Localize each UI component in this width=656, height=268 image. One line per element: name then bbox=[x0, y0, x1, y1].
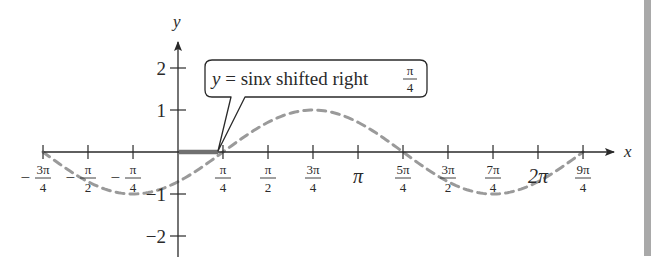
y-tick-label: −2 bbox=[146, 226, 166, 247]
x-tick-label-denominator: 2 bbox=[85, 180, 92, 195]
x-tick-label-numerator: 3π bbox=[306, 162, 320, 177]
callout-frac-num: π bbox=[407, 63, 414, 78]
x-tick-label-minus: − bbox=[110, 168, 120, 187]
x-tick-label-numerator: π bbox=[265, 162, 272, 177]
callout-text: y = sinx shifted right bbox=[210, 68, 369, 89]
x-tick-label-denominator: 4 bbox=[400, 180, 407, 195]
y-tick-label: 2 bbox=[157, 58, 167, 79]
x-tick-label-denominator: 4 bbox=[310, 180, 317, 195]
x-tick-label-numerator: 5π bbox=[396, 162, 410, 177]
callout-annotation: y = sinx shifted right π 4 bbox=[205, 60, 427, 151]
y-tick-label: −1 bbox=[146, 184, 166, 205]
x-tick-label-denominator: 2 bbox=[445, 180, 452, 195]
callout-frac-den: 4 bbox=[407, 80, 414, 95]
x-tick-label-denominator: 4 bbox=[490, 180, 497, 195]
x-tick-label-numerator: π bbox=[220, 162, 227, 177]
x-tick-label-numerator: π bbox=[85, 162, 92, 177]
x-tick-label: 2π bbox=[528, 165, 549, 187]
page-edge-bar bbox=[644, 0, 651, 256]
x-tick-label-minus: − bbox=[20, 168, 30, 187]
x-tick-label-minus: − bbox=[65, 168, 75, 187]
x-tick-label-denominator: 4 bbox=[580, 180, 587, 195]
x-tick-label: π bbox=[353, 165, 364, 187]
x-tick-label-numerator: 3π bbox=[36, 162, 50, 177]
x-tick-label-denominator: 4 bbox=[220, 180, 227, 195]
x-tick-label-denominator: 4 bbox=[130, 180, 137, 195]
y-tick-label: 1 bbox=[157, 100, 167, 121]
x-tick-label-numerator: 3π bbox=[441, 162, 455, 177]
x-tick-label-denominator: 2 bbox=[265, 180, 272, 195]
sine-shift-chart: 3π4−π2−π4−π4π23π4π5π43π27π42π9π4 21−1−2 … bbox=[0, 0, 656, 268]
x-tick-label-numerator: π bbox=[130, 162, 137, 177]
x-tick-label-numerator: 7π bbox=[486, 162, 500, 177]
x-axis-label: x bbox=[623, 142, 632, 161]
y-axis-label: y bbox=[171, 12, 181, 31]
x-tick-label-denominator: 4 bbox=[40, 180, 47, 195]
x-tick-label-numerator: 9π bbox=[576, 162, 590, 177]
